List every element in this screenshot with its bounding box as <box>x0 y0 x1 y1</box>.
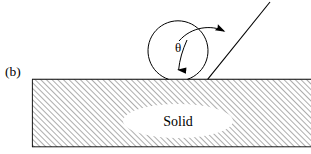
curved-arrow-icon <box>179 28 224 41</box>
tangent-ray-icon <box>208 2 270 79</box>
contact-angle-diagram: Solid θ (b) <box>0 0 311 154</box>
solid-label: Solid <box>163 114 193 129</box>
angle-label: θ <box>175 40 181 55</box>
figure-canvas: Solid θ (b) <box>0 0 311 154</box>
tangent-ray <box>208 2 270 79</box>
panel-label: (b) <box>5 64 21 79</box>
curved-arrow-group <box>179 28 224 41</box>
solid-label-ellipse: Solid <box>123 104 233 138</box>
